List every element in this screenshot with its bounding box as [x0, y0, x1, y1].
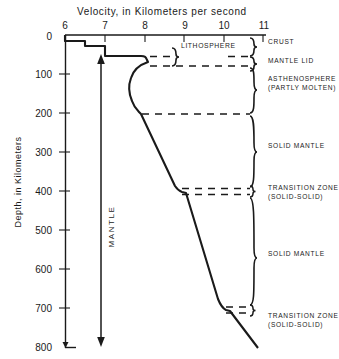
- crust-brace: [250, 38, 257, 56]
- velocity-depth-curve: [65, 35, 258, 348]
- boundary-dashes-transition-400: [182, 189, 250, 195]
- mantle-arrow-head-bottom: [97, 337, 105, 347]
- y-tick-marks: [59, 74, 70, 308]
- mantle-arrow-head-top: [97, 54, 105, 64]
- asthenosphere-brace: [250, 68, 257, 113]
- transition-670-brace: [250, 305, 256, 316]
- solid-mantle-upper-brace: [250, 116, 257, 187]
- lithosphere-brace: [172, 48, 179, 66]
- x-tick-marks: [65, 35, 263, 42]
- solid-mantle-lower-brace: [250, 198, 257, 305]
